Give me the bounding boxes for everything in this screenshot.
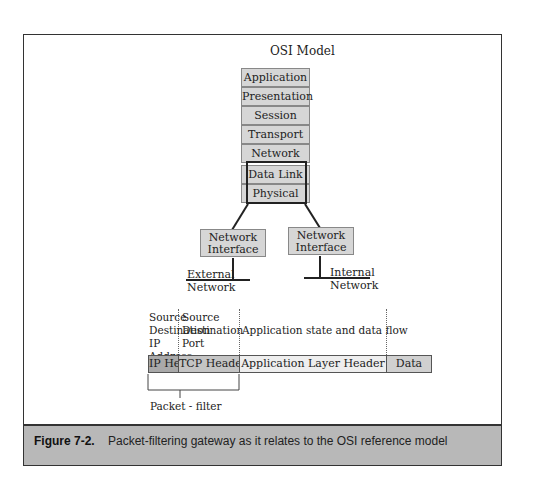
- application-layer-header-segment: Application Layer Header: [239, 355, 387, 373]
- external-network-label: External Network: [187, 268, 237, 294]
- connector-lines: [0, 0, 548, 479]
- figure-caption: Figure 7-2. Packet-filtering gateway as …: [23, 424, 502, 466]
- internal-network-label: Internal Network: [330, 266, 372, 292]
- tcp-annotation: Source Destination Port: [182, 311, 237, 350]
- caption-label: Figure 7-2.: [34, 434, 95, 448]
- app-annotation: Application state and data flow: [242, 324, 408, 337]
- packet-filter-label: Packet - filter: [150, 400, 222, 413]
- internal-network-interface: Network Interface: [288, 227, 354, 255]
- data-segment: Data: [386, 355, 432, 373]
- tcp-header-segment: TCP Header: [178, 355, 240, 373]
- ip-header-segment: IP Header: [148, 355, 179, 373]
- caption-text: Packet-filtering gateway as it relates t…: [108, 434, 448, 448]
- external-network-interface: Network Interface: [200, 229, 266, 257]
